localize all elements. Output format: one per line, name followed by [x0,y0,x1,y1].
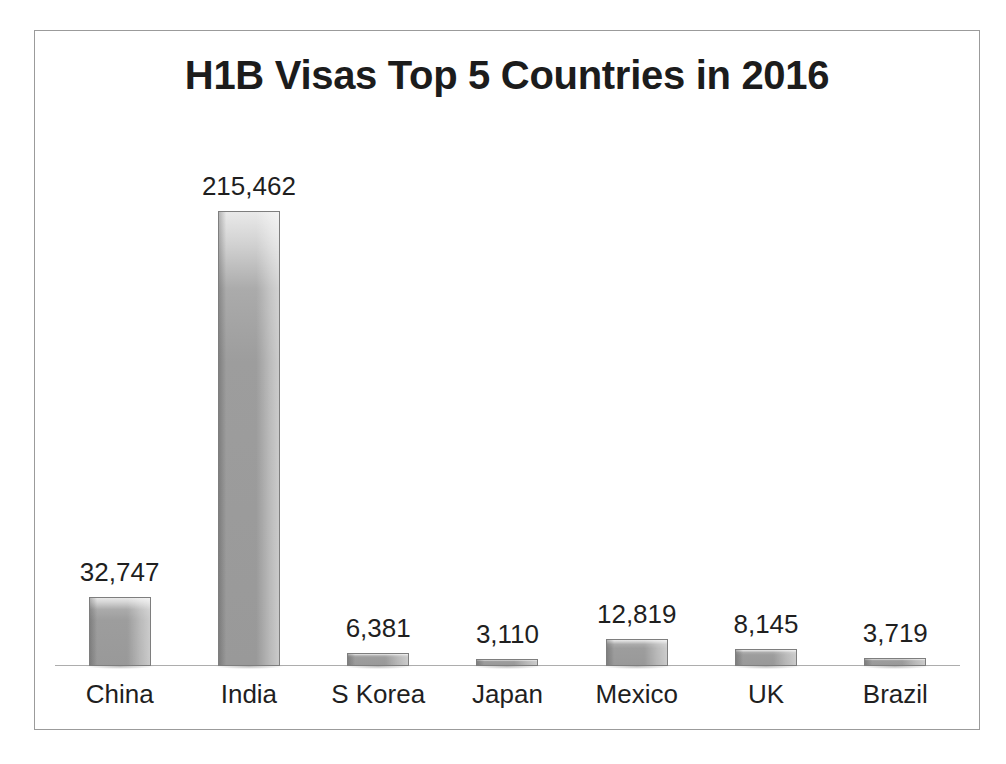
category-label-brazil: Brazil [831,679,960,710]
bar-china[interactable] [89,597,151,666]
bar-value-label: 3,110 [476,619,539,650]
plot-area: 32,747215,4626,3813,11012,8198,1453,719 [55,126,960,671]
bar-india[interactable] [218,211,280,666]
chart-frame: H1B Visas Top 5 Countries in 2016 32,747… [34,30,980,730]
bar-value-label: 215,462 [202,171,296,202]
bar-group: 32,747 [55,121,184,666]
bar-group: 6,381 [314,121,443,666]
bar-value-label: 3,719 [863,618,928,649]
category-label-uk: UK [701,679,830,710]
bar-group: 8,145 [701,121,830,666]
bar-brazil[interactable] [864,658,926,666]
bar-uk[interactable] [735,649,797,666]
bar-mexico[interactable] [606,639,668,666]
bar-group: 3,110 [443,121,572,666]
category-label-china: China [55,679,184,710]
category-label-mexico: Mexico [572,679,701,710]
category-label-s-korea: S Korea [314,679,443,710]
bar-value-label: 6,381 [346,613,411,644]
bar-s-korea[interactable] [347,653,409,666]
chart-title: H1B Visas Top 5 Countries in 2016 [35,53,979,98]
bar-value-label: 32,747 [80,557,160,588]
category-label-india: India [184,679,313,710]
bar-japan[interactable] [476,659,538,666]
bar-group: 215,462 [184,121,313,666]
bar-value-label: 8,145 [733,609,798,640]
bar-group: 3,719 [831,121,960,666]
bar-value-label: 12,819 [597,599,677,630]
category-label-japan: Japan [443,679,572,710]
bar-group: 12,819 [572,121,701,666]
